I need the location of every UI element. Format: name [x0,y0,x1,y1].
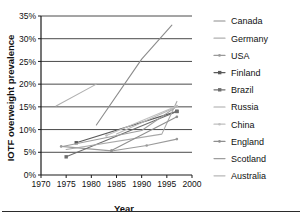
y-axis-tick-label: 30% [19,34,36,44]
data-series [96,25,171,125]
legend-label: Scotland [231,154,266,164]
series-line [96,25,171,125]
legend-marker-icon [218,123,221,126]
legend-label: Canada [231,16,263,26]
x-axis-tick-labels: 1970197519801985199019952000 [32,175,202,189]
legend-marker-icon [218,140,221,143]
series-marker [175,110,178,113]
x-axis-tick-label: 1980 [82,179,101,189]
series-marker [145,144,148,147]
y-axis-tick-label: 35% [19,11,36,21]
x-axis-tick-label: 1970 [32,179,51,189]
legend-item-england[interactable]: England [214,137,264,147]
legend-label: Brazil [231,85,254,95]
legend-item-scotland[interactable]: Scotland [214,154,266,164]
legend-item-finland[interactable]: Finland [214,68,261,78]
x-axis-tick-label: 1995 [157,179,176,189]
legend-item-canada[interactable]: Canada [214,16,263,26]
legend-item-china[interactable]: China [214,120,255,130]
series-marker [176,116,179,119]
y-axis-title: IOTF overweight prevalence [5,35,16,162]
x-axis-tick-label: 1985 [107,179,126,189]
series-line [56,84,96,106]
y-axis-tick-label: 10% [19,125,36,135]
legend-item-australia[interactable]: Australia [214,171,266,181]
legend-label: USA [231,51,250,61]
legend-marker-icon [218,71,221,74]
legend-label: Russia [231,102,259,112]
y-axis-tick-label: 25% [19,57,36,67]
legend-label: Finland [231,68,261,78]
series-marker [110,149,113,152]
series-line [106,106,176,136]
y-axis-tick-label: 15% [19,102,36,112]
x-axis-tick-label: 1990 [132,179,151,189]
legend-label: Germany [231,34,269,44]
line-chart: 0%5%10%15%20%25%30%35% 19701975198019851… [0,0,302,218]
x-axis-tick-label: 2000 [183,179,202,189]
legend-marker-icon [218,54,221,57]
legend-item-usa[interactable]: USA [214,51,250,61]
y-axis-tick-label: 20% [19,79,36,89]
y-axis-tick-labels: 0%5%10%15%20%25%30%35% [19,11,41,180]
x-axis-tick-label: 1975 [57,179,76,189]
series-marker [105,134,108,137]
legend-label: England [231,137,264,147]
data-series [56,84,96,106]
legend-label: Australia [231,171,266,181]
series-marker [176,138,179,141]
legend-marker-icon [218,88,221,91]
legend-item-germany[interactable]: Germany [214,34,269,44]
y-axis-tick-label: 5% [24,147,37,157]
series-marker [64,155,67,158]
legend-item-russia[interactable]: Russia [214,102,259,112]
chart-legend: CanadaGermanyUSAFinlandBrazilRussiaChina… [214,16,269,181]
chart-figure: 0%5%10%15%20%25%30%35% 19701975198019851… [0,0,302,218]
data-series [105,105,178,137]
data-series [60,138,178,152]
data-series-group [56,25,178,158]
legend-item-brazil[interactable]: Brazil [214,85,254,95]
legend-label: China [231,120,255,130]
x-axis-title: Year [114,203,134,214]
bottom-divider [2,211,300,212]
